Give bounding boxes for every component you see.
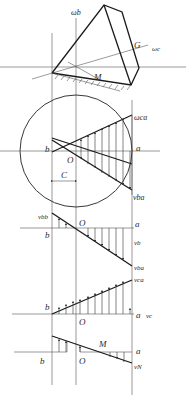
label-a: a — [136, 143, 141, 153]
label-O: O — [79, 317, 86, 327]
label-v-ca: vca — [134, 276, 144, 284]
label-O: O — [79, 356, 86, 366]
panel-vb: vbb O a b vb vba — [20, 213, 145, 272]
label-b: b — [45, 230, 50, 240]
label-O: O — [79, 218, 86, 228]
label-b: b — [45, 144, 50, 154]
label-M: M — [98, 339, 107, 349]
label-v-ba: vba — [133, 193, 145, 202]
cone-kinematics-diagram: ωb ωc G M — [0, 0, 186, 397]
label-a: a — [136, 346, 141, 356]
label-O: O — [67, 155, 74, 165]
label-a: a — [136, 310, 141, 320]
label-v-ba: vba — [134, 264, 145, 272]
circle-view: ωca b a O C vba — [0, 95, 160, 207]
label-omega-c: ωc — [152, 45, 161, 53]
label-M-top: M — [93, 72, 102, 82]
label-v-N: vN — [134, 363, 142, 371]
label-b: b — [45, 302, 50, 312]
label-G: G — [134, 40, 141, 50]
label-v-c: vc — [146, 312, 153, 320]
label-v-bb: vbb — [38, 213, 49, 221]
label-omega-ca: ωca — [134, 113, 147, 122]
label-b: b — [40, 356, 45, 366]
label-v-b: vb — [134, 239, 141, 247]
cone-top-view: ωb ωc G M — [0, 5, 186, 91]
label-a: a — [135, 219, 140, 229]
label-C: C — [61, 170, 68, 180]
ground-hatch-icon — [52, 73, 130, 91]
panel-vN: M a b O vN — [14, 336, 142, 371]
label-omega-b: ωb — [71, 8, 81, 17]
